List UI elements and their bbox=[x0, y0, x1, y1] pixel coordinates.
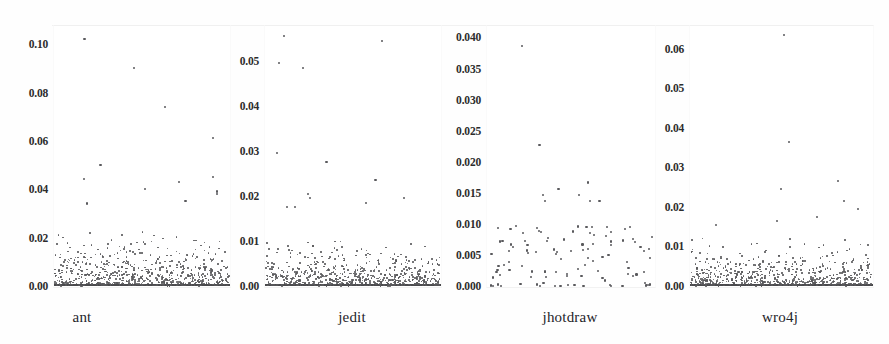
data-point bbox=[866, 270, 868, 272]
data-point bbox=[710, 266, 712, 268]
data-point bbox=[808, 272, 810, 274]
data-point bbox=[723, 275, 725, 277]
data-point bbox=[699, 273, 701, 275]
data-point bbox=[773, 274, 775, 276]
data-point bbox=[845, 285, 847, 287]
data-point bbox=[769, 271, 771, 273]
data-point bbox=[843, 268, 845, 270]
data-point bbox=[762, 260, 764, 262]
data-point bbox=[851, 277, 853, 279]
data-point bbox=[777, 276, 779, 278]
data-point bbox=[761, 285, 763, 287]
data-point bbox=[786, 284, 788, 286]
data-point bbox=[844, 279, 846, 281]
data-point bbox=[773, 266, 775, 268]
data-point bbox=[770, 266, 772, 268]
data-point bbox=[696, 284, 698, 286]
data-point bbox=[771, 262, 773, 264]
data-point bbox=[780, 285, 782, 287]
data-point bbox=[840, 277, 842, 279]
data-point bbox=[789, 246, 791, 248]
data-point bbox=[811, 280, 813, 282]
data-point bbox=[711, 284, 713, 286]
data-point bbox=[844, 239, 846, 241]
ytick-label-wro4j-6: 0.06 bbox=[665, 43, 684, 55]
data-point bbox=[810, 276, 812, 278]
data-point bbox=[864, 283, 866, 285]
data-point bbox=[756, 279, 758, 281]
data-point bbox=[774, 277, 776, 279]
data-point bbox=[792, 257, 794, 259]
data-point bbox=[819, 266, 821, 268]
data-point bbox=[759, 266, 761, 268]
data-point bbox=[839, 282, 841, 284]
data-point bbox=[852, 260, 854, 262]
outlier-point bbox=[715, 224, 717, 226]
data-point bbox=[789, 281, 791, 283]
data-point bbox=[735, 273, 737, 275]
data-point bbox=[840, 280, 842, 282]
data-point bbox=[692, 249, 694, 251]
ytick-label-wro4j-4: 0.04 bbox=[665, 122, 684, 134]
data-point bbox=[741, 255, 743, 257]
data-point bbox=[851, 280, 853, 282]
data-point bbox=[845, 272, 847, 274]
data-point bbox=[699, 261, 701, 263]
data-point bbox=[708, 263, 710, 265]
data-point bbox=[754, 282, 756, 284]
data-point bbox=[743, 263, 745, 265]
data-point bbox=[824, 278, 826, 280]
outlier-point bbox=[780, 188, 782, 190]
data-point bbox=[752, 271, 754, 273]
data-point bbox=[757, 285, 759, 287]
data-point bbox=[732, 279, 734, 281]
data-point bbox=[866, 282, 868, 284]
data-point bbox=[809, 269, 811, 271]
data-point bbox=[832, 255, 834, 257]
data-point bbox=[730, 272, 732, 274]
data-point bbox=[837, 282, 839, 284]
data-point bbox=[708, 270, 710, 272]
data-point bbox=[841, 272, 843, 274]
data-point bbox=[796, 263, 798, 265]
data-point bbox=[868, 279, 870, 281]
data-point bbox=[702, 238, 704, 240]
data-point bbox=[706, 258, 708, 260]
data-point bbox=[800, 265, 802, 267]
data-point bbox=[774, 283, 776, 285]
data-point bbox=[800, 269, 802, 271]
data-point bbox=[709, 279, 711, 281]
data-point bbox=[749, 271, 751, 273]
data-point bbox=[851, 261, 853, 263]
data-point bbox=[707, 253, 709, 255]
data-point bbox=[836, 274, 838, 276]
data-point bbox=[696, 274, 698, 276]
data-point bbox=[715, 275, 717, 277]
ytick-label-wro4j-0: 0.00 bbox=[665, 280, 684, 292]
data-point bbox=[764, 251, 766, 253]
data-point bbox=[773, 281, 775, 283]
data-point bbox=[867, 267, 869, 269]
data-point bbox=[696, 267, 698, 269]
data-point bbox=[769, 283, 771, 285]
data-point bbox=[726, 258, 728, 260]
data-point bbox=[792, 285, 794, 287]
data-point bbox=[842, 263, 844, 265]
data-point bbox=[816, 267, 818, 269]
data-point bbox=[818, 247, 820, 249]
data-point bbox=[704, 269, 706, 271]
data-point bbox=[778, 261, 780, 263]
ytick-label-wro4j-3: 0.03 bbox=[665, 161, 684, 173]
data-point bbox=[767, 266, 769, 268]
data-point bbox=[788, 270, 790, 272]
data-point bbox=[717, 276, 719, 278]
data-point bbox=[829, 275, 831, 277]
data-point bbox=[794, 284, 796, 286]
data-point bbox=[826, 255, 828, 257]
data-point bbox=[752, 273, 754, 275]
data-point bbox=[771, 284, 773, 286]
data-point bbox=[780, 283, 782, 285]
data-point bbox=[860, 244, 862, 246]
data-point bbox=[740, 273, 742, 275]
data-point bbox=[785, 264, 787, 266]
